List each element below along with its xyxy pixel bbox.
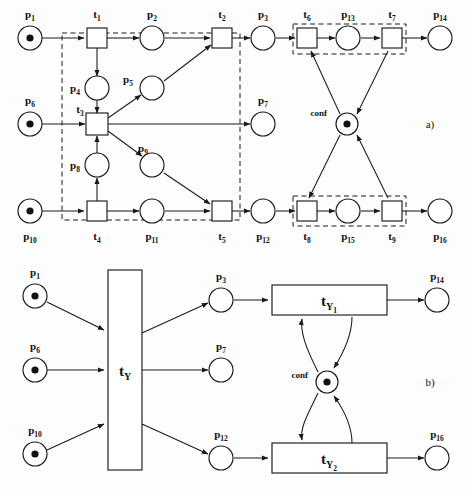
transition-t8[interactable] — [297, 201, 317, 221]
arc-t9-conf — [357, 135, 388, 198]
panel-b-group: p1 p3 p14 p6 p7 conf p10 p12 p16 tY tY1 … — [23, 266, 449, 473]
transition-t3[interactable] — [86, 113, 108, 135]
place-p3[interactable] — [251, 26, 275, 50]
panel-label-b: b) — [425, 376, 435, 389]
place-p16[interactable] — [428, 199, 452, 223]
transition-tY[interactable] — [108, 270, 142, 470]
place-p4[interactable] — [85, 76, 109, 100]
label-t6: t6 — [303, 8, 311, 23]
arc-p10-tY — [47, 424, 104, 450]
label-conf-b: conf — [292, 370, 310, 380]
token-b-p10 — [31, 450, 38, 457]
token-p6 — [26, 120, 33, 127]
place-p7[interactable] — [251, 112, 275, 136]
place-p12[interactable] — [251, 199, 275, 223]
place-p13[interactable] — [336, 26, 360, 50]
token-conf-a — [343, 120, 350, 127]
transition-t7[interactable] — [382, 28, 402, 48]
label-p2: p2 — [147, 8, 157, 23]
token-conf-b — [323, 378, 330, 385]
place-p5[interactable] — [140, 76, 164, 100]
label-b-p12: p12 — [214, 428, 228, 443]
label-t2: t2 — [218, 8, 226, 23]
label-b-p16: p16 — [430, 428, 444, 443]
token-b-p1 — [31, 292, 38, 299]
arc-p9-t5 — [164, 173, 210, 204]
label-p5: p5 — [123, 73, 133, 88]
place-b-p3[interactable] — [209, 288, 233, 312]
arc-t7-conf — [357, 51, 388, 114]
arc-tY2-conf — [334, 396, 352, 443]
arc-tY-p3 — [142, 303, 208, 333]
place-p14[interactable] — [428, 26, 452, 50]
label-t1: t1 — [93, 8, 101, 23]
label-p7: p7 — [258, 94, 268, 109]
panel-a-group: p1 p2 p3 p13 p14 p4 p5 p6 p7 conf p8 p9 … — [18, 8, 452, 245]
arc-conf-tY2 — [302, 393, 318, 440]
label-b-p1: p1 — [30, 266, 40, 281]
label-t4: t4 — [93, 230, 101, 245]
label-p8: p8 — [70, 159, 80, 174]
place-b-p7[interactable] — [209, 358, 233, 382]
transition-t5[interactable] — [212, 201, 232, 221]
label-t9: t9 — [388, 230, 396, 245]
label-t5: t5 — [218, 230, 226, 245]
label-p6: p6 — [25, 94, 35, 109]
label-b-p3: p3 — [216, 270, 226, 285]
arc-tY1-conf — [334, 317, 352, 368]
label-p10: p10 — [23, 230, 37, 245]
label-b-p7: p7 — [216, 340, 226, 355]
label-b-p6: p6 — [30, 340, 40, 355]
label-t8: t8 — [303, 230, 311, 245]
panel-label-a: a) — [426, 118, 435, 131]
place-p8[interactable] — [85, 153, 109, 177]
label-b-p10: p10 — [28, 424, 42, 439]
token-b-p6 — [31, 366, 38, 373]
transition-t6[interactable] — [297, 28, 317, 48]
arc-p5-t2 — [164, 45, 211, 81]
place-p15[interactable] — [336, 199, 360, 223]
place-b-p16[interactable] — [425, 446, 449, 470]
place-p2[interactable] — [140, 26, 164, 50]
transition-t4[interactable] — [87, 201, 107, 221]
arc-p1-tY — [47, 302, 104, 330]
token-p10 — [26, 207, 33, 214]
label-p4: p4 — [70, 82, 80, 97]
arc-t3-p5 — [108, 95, 141, 118]
label-p14: p14 — [433, 8, 447, 23]
arc-conf-t6 — [311, 51, 340, 114]
place-b-p12[interactable] — [209, 446, 233, 470]
label-p15: p15 — [341, 230, 355, 245]
petri-net-figure: p1 p2 p3 p13 p14 p4 p5 p6 p7 conf p8 p9 … — [0, 0, 472, 496]
label-p3: p3 — [258, 8, 268, 23]
petri-net-canvas: p1 p2 p3 p13 p14 p4 p5 p6 p7 conf p8 p9 … — [0, 0, 472, 496]
arc-t3-p9 — [108, 131, 142, 156]
transition-t1[interactable] — [87, 28, 107, 48]
arc-conf-t8 — [309, 135, 340, 198]
label-p16: p16 — [433, 230, 447, 245]
label-p12: p12 — [256, 230, 270, 245]
label-conf-a: conf — [311, 108, 329, 118]
transition-t9[interactable] — [382, 201, 402, 221]
arc-tY-p12 — [142, 424, 208, 454]
place-b-p14[interactable] — [425, 288, 449, 312]
arc-conf-tY1 — [302, 319, 318, 372]
label-t7: t7 — [388, 8, 396, 23]
label-p11: p11 — [145, 230, 158, 245]
transition-t2[interactable] — [212, 28, 232, 48]
label-t3: t3 — [76, 103, 84, 118]
label-p1: p1 — [25, 8, 35, 23]
token-p1 — [26, 34, 33, 41]
label-p13: p13 — [341, 8, 355, 23]
place-p11[interactable] — [140, 199, 164, 223]
label-b-p14: p14 — [430, 270, 444, 285]
